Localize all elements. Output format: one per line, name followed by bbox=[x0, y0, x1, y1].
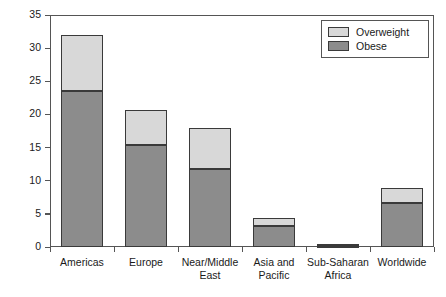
bar-asia-and-pacific bbox=[253, 218, 295, 247]
bar-worldwide bbox=[381, 188, 423, 247]
legend: Overweight Obese bbox=[321, 20, 429, 58]
x-tick-mark bbox=[434, 247, 435, 252]
x-tick-mark bbox=[370, 247, 371, 252]
x-axis-label: Asia and Pacific bbox=[242, 256, 306, 281]
bar-chart: Prevalence (%) 05101520253035 AmericasEu… bbox=[0, 0, 446, 297]
y-tick-label: 35 bbox=[29, 8, 41, 21]
y-tick-label: 15 bbox=[29, 141, 41, 154]
x-tick-mark bbox=[306, 247, 307, 252]
x-tick-mark bbox=[178, 247, 179, 252]
y-tick-label: 30 bbox=[29, 41, 41, 54]
bar-segment-obese bbox=[381, 203, 423, 247]
x-axis-label: Americas bbox=[50, 256, 114, 269]
legend-item-obese: Obese bbox=[328, 39, 423, 53]
bar-near-middle-east bbox=[189, 128, 231, 247]
bar-segment-overweight bbox=[125, 110, 167, 145]
legend-item-overweight: Overweight bbox=[328, 25, 423, 39]
bar-segment-overweight bbox=[189, 128, 231, 169]
x-tick-mark bbox=[242, 247, 243, 252]
x-axis-label: Sub-Saharan Africa bbox=[306, 256, 370, 281]
bar-segment-overweight bbox=[61, 35, 103, 91]
bar-segment-obese bbox=[189, 169, 231, 247]
x-axis-label: Europe bbox=[114, 256, 178, 269]
y-tick-label: 0 bbox=[35, 240, 41, 253]
bar-segment-obese bbox=[253, 226, 295, 247]
bar-segment-obese bbox=[125, 145, 167, 247]
bar-segment-overweight bbox=[381, 188, 423, 203]
bar-segment-obese bbox=[61, 91, 103, 247]
bar-americas bbox=[61, 35, 103, 247]
bar-europe bbox=[125, 110, 167, 247]
bar-sub-saharan-africa bbox=[317, 244, 359, 247]
y-tick-label: 20 bbox=[29, 107, 41, 120]
y-tick-label: 25 bbox=[29, 74, 41, 87]
legend-swatch-obese bbox=[328, 41, 349, 51]
x-tick-mark bbox=[50, 247, 51, 252]
y-tick-label: 10 bbox=[29, 174, 41, 187]
x-tick-mark bbox=[114, 247, 115, 252]
x-axis-label: Worldwide bbox=[370, 256, 434, 269]
legend-swatch-overweight bbox=[328, 27, 349, 37]
legend-label-obese: Obese bbox=[356, 40, 387, 52]
y-tick-label: 5 bbox=[35, 207, 41, 220]
legend-label-overweight: Overweight bbox=[356, 26, 409, 38]
bar-segment-obese bbox=[317, 246, 359, 248]
bar-segment-overweight bbox=[253, 218, 295, 226]
x-axis-label: Near/Middle East bbox=[178, 256, 242, 281]
